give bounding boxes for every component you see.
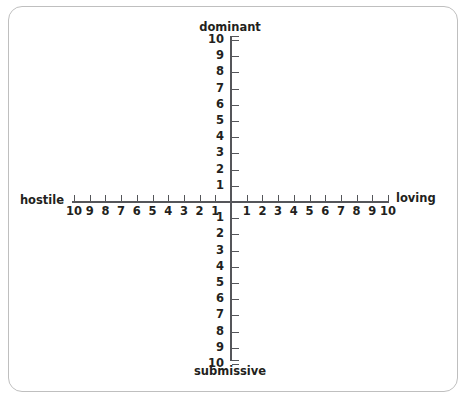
tick-hostile-4 — [168, 195, 169, 202]
tick-label-dominant-6: 6 — [196, 99, 224, 111]
tick-submissive-2 — [232, 234, 239, 235]
tick-loving-3 — [278, 195, 279, 202]
tick-hostile-2 — [200, 195, 201, 202]
tick-label-dominant-1: 1 — [196, 180, 224, 192]
vertical-axis-line — [230, 36, 232, 361]
tick-submissive-5 — [232, 283, 239, 284]
tick-loving-9 — [372, 195, 373, 202]
tick-dominant-9 — [232, 56, 239, 57]
tick-label-submissive-6: 6 — [196, 293, 224, 305]
tick-label-submissive-4: 4 — [196, 261, 224, 273]
tick-submissive-6 — [232, 299, 239, 300]
tick-label-submissive-9: 9 — [196, 342, 224, 354]
tick-loving-6 — [325, 195, 326, 202]
tick-label-loving-10: 10 — [378, 206, 398, 218]
tick-hostile-10 — [74, 195, 75, 202]
tick-label-submissive-10: 10 — [196, 358, 224, 370]
tick-hostile-7 — [121, 195, 122, 202]
tick-hostile-9 — [90, 195, 91, 202]
tick-label-dominant-10: 10 — [196, 34, 224, 46]
tick-loving-8 — [357, 195, 358, 202]
tick-hostile-1 — [215, 195, 216, 202]
tick-label-dominant-5: 5 — [196, 115, 224, 127]
tick-dominant-4 — [232, 137, 239, 138]
tick-submissive-9 — [232, 348, 239, 349]
tick-label-submissive-8: 8 — [196, 326, 224, 338]
tick-submissive-1 — [232, 218, 239, 219]
tick-loving-2 — [262, 195, 263, 202]
tick-label-dominant-7: 7 — [196, 83, 224, 95]
tick-hostile-8 — [105, 195, 106, 202]
tick-dominant-1 — [232, 186, 239, 187]
tick-dominant-8 — [232, 72, 239, 73]
tick-hostile-6 — [137, 195, 138, 202]
tick-loving-5 — [310, 195, 311, 202]
tick-submissive-4 — [232, 267, 239, 268]
tick-label-dominant-4: 4 — [196, 131, 224, 143]
axis-pole-label-loving: loving — [396, 193, 436, 205]
tick-label-submissive-1: 1 — [196, 212, 224, 224]
tick-hostile-5 — [153, 195, 154, 202]
tick-loving-1 — [247, 195, 248, 202]
tick-label-dominant-9: 9 — [196, 50, 224, 62]
tick-dominant-3 — [232, 153, 239, 154]
tick-submissive-10 — [232, 364, 239, 365]
vertical-axis-bottom-cap — [232, 360, 239, 361]
tick-label-dominant-2: 2 — [196, 164, 224, 176]
tick-submissive-7 — [232, 315, 239, 316]
tick-label-dominant-3: 3 — [196, 147, 224, 159]
tick-label-submissive-5: 5 — [196, 277, 224, 289]
interpersonal-circumplex-plot: dominant submissive hostile loving 10987… — [0, 0, 466, 401]
tick-hostile-3 — [184, 195, 185, 202]
vertical-axis-top-cap — [232, 36, 239, 37]
tick-dominant-5 — [232, 121, 239, 122]
tick-dominant-6 — [232, 105, 239, 106]
tick-loving-7 — [341, 195, 342, 202]
tick-label-submissive-2: 2 — [196, 228, 224, 240]
tick-submissive-8 — [232, 332, 239, 333]
tick-loving-4 — [294, 195, 295, 202]
tick-label-dominant-8: 8 — [196, 66, 224, 78]
axis-pole-label-hostile: hostile — [20, 195, 64, 207]
tick-submissive-3 — [232, 251, 239, 252]
tick-dominant-7 — [232, 89, 239, 90]
tick-label-submissive-7: 7 — [196, 309, 224, 321]
tick-label-submissive-3: 3 — [196, 245, 224, 257]
tick-dominant-2 — [232, 170, 239, 171]
tick-dominant-10 — [232, 40, 239, 41]
tick-loving-10 — [388, 195, 389, 202]
